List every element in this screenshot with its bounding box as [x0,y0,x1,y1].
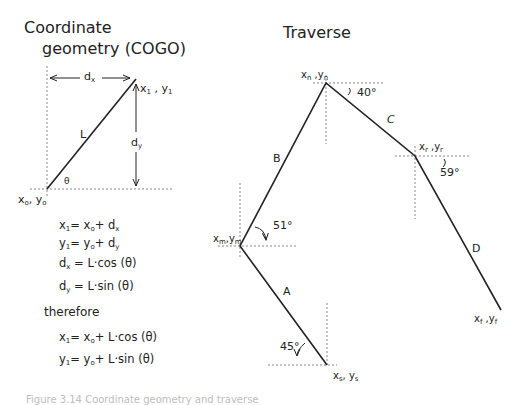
point-n-label: xn ,yn [301,69,328,82]
angle-arc-m [255,227,266,240]
point-f-label: xf ,yf [474,313,497,326]
equation-x1: x1= xo+ dx [59,218,119,233]
leg-A-label: A [283,285,291,298]
cogo-line-L [47,79,136,189]
result-equation-y1: y1= yo+ L·sin (θ) [59,352,154,367]
cogo-title-line2: geometry (COGO) [42,39,186,58]
equation-dy: dy = L·sin (θ) [59,279,134,294]
therefore-label: therefore [44,305,99,319]
figure-caption: Figure 3.14 Coordinate geometry and trav… [26,394,259,405]
traverse-diagram [218,75,501,366]
angle-arc-n [348,88,350,95]
equation-dx: dx = L·cos (θ) [59,256,137,271]
L-label: L [80,128,86,141]
point-1-label: x1 , y1 [140,82,172,96]
leg-D-label: D [472,242,480,255]
angle-m-label: 51° [273,219,293,232]
theta-label: θ [64,176,70,186]
point-0-label: xo, yo [18,193,47,207]
point-s-label: xs, ys [333,370,359,383]
angle-s-label: 45° [280,340,300,353]
leg-B-label: B [273,152,281,165]
point-r-label: xr ,yr [419,141,443,154]
result-equation-x1: x1= xo+ L·cos (θ) [59,330,157,345]
equation-y1: y1= yo+ dy [59,236,119,251]
dx-label: dx [84,70,95,84]
angle-n-label: 40° [357,86,377,99]
angle-r-label: 59° [440,166,460,179]
traverse-title: Traverse [283,23,351,42]
cogo-title-line1: Coordinate [24,18,112,37]
dy-label: dy [131,136,142,150]
leg-C-label: C [387,113,395,126]
point-m-label: xm,ym [213,233,242,246]
